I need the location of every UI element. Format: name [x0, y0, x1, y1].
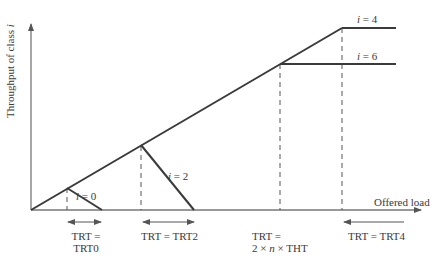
curve-label-i0: i = 0	[76, 190, 96, 202]
throughput-diagonal	[31, 28, 342, 210]
throughput-diagram	[0, 0, 436, 260]
arrowhead-left-trt2	[142, 219, 150, 225]
annotation-trt0: TRT = TRT0	[66, 230, 106, 254]
annotation-tht: TRT = 2 × n × THT	[252, 230, 308, 254]
x-axis-label: Offered load	[374, 196, 430, 208]
curve-label-i6: i = 6	[357, 50, 377, 62]
arrowhead-left-trt0	[67, 219, 75, 225]
annotation-trt2: TRT = TRT2	[141, 230, 198, 242]
curve-label-i4: i = 4	[357, 13, 377, 25]
y-axis-label: Throughput of class i	[4, 24, 16, 118]
curve-label-i2: i = 2	[168, 170, 188, 182]
annotation-trt4: TRT = TRT4	[348, 230, 405, 242]
